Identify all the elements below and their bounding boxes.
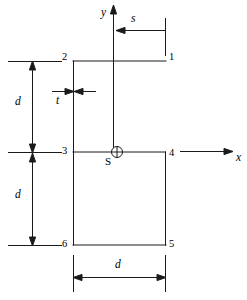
shear-center-marker	[111, 146, 123, 158]
dimension-upper-d-arrowhead-top	[29, 61, 35, 70]
y-axis	[110, 5, 116, 150]
dimension-lower-d-arrowhead-top	[29, 153, 35, 162]
dimension-s-label: s	[131, 13, 135, 25]
dimension-width-d-label: d	[115, 259, 121, 271]
node-label-4: 4	[169, 148, 174, 159]
dimension-width-d-arrowhead-left	[73, 274, 82, 280]
x-axis	[180, 148, 233, 154]
dimension-s	[116, 18, 166, 56]
node-label-6: 6	[62, 239, 67, 250]
dimension-width-d-arrowhead-right	[157, 274, 166, 280]
cross-section-drawing	[0, 0, 247, 300]
dimension-lower-d-arrowhead-bottom	[29, 237, 35, 246]
figure-container: y x s d d d t S 1 2 3 4 5 6	[0, 0, 247, 300]
dimension-thickness-t-label: t	[56, 95, 59, 107]
y-axis-arrowhead	[110, 5, 116, 14]
dimension-s-arrowhead	[116, 27, 125, 33]
node-label-2: 2	[62, 52, 67, 63]
node-label-3: 3	[62, 146, 67, 157]
node-label-5: 5	[169, 239, 174, 250]
shear-center-label: S	[105, 156, 111, 167]
dimension-thickness-t-arrowhead-right	[74, 88, 83, 94]
x-axis-arrowhead	[224, 148, 233, 154]
dimension-upper-d-label: d	[15, 96, 21, 108]
dimension-lower-d-label: d	[15, 189, 21, 201]
x-axis-label: x	[236, 152, 241, 164]
y-axis-label: y	[101, 7, 106, 19]
node-label-1: 1	[169, 52, 174, 63]
